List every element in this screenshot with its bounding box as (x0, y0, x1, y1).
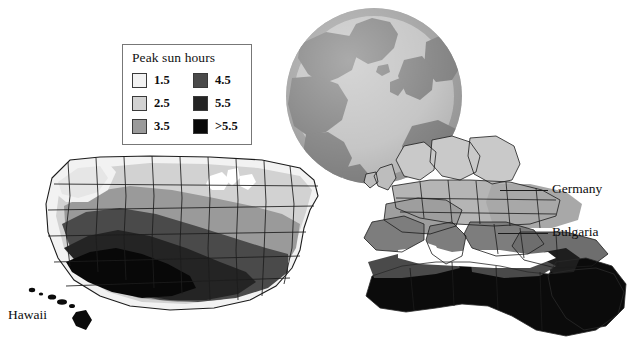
hawaii-label: Hawaii (8, 307, 47, 323)
legend-label-2-5: 2.5 (154, 97, 170, 110)
legend-swatch-2-5 (132, 96, 147, 111)
solar-resource-figure: Germany Bulgaria Hawaii Peak sun hours 1… (0, 0, 629, 364)
legend-item-5-5: 5.5 (193, 96, 231, 111)
bulgaria-leader-line (498, 233, 548, 234)
legend-item-1-5: 1.5 (132, 73, 170, 88)
germany-leader-line (500, 190, 548, 191)
legend-item-2-5: 2.5 (132, 96, 170, 111)
legend-swatch-4-5 (193, 73, 208, 88)
europe-africa-map (0, 0, 629, 364)
legend-swatch-1-5 (132, 73, 147, 88)
legend-item-4-5: 4.5 (193, 73, 231, 88)
legend-label-3-5: 3.5 (154, 120, 170, 133)
legend-swatch-gt-5-5 (193, 119, 208, 134)
legend-item-gt-5-5: >5.5 (193, 119, 238, 134)
legend-label-5-5: 5.5 (215, 97, 231, 110)
bulgaria-label: Bulgaria (552, 224, 599, 240)
legend-item-3-5: 3.5 (132, 119, 170, 134)
legend-label-1-5: 1.5 (154, 74, 170, 87)
legend-label-4-5: 4.5 (215, 74, 231, 87)
germany-label: Germany (552, 181, 602, 197)
legend-title: Peak sun hours (132, 50, 215, 66)
legend-label-gt-5-5: >5.5 (215, 120, 238, 133)
legend-swatch-5-5 (193, 96, 208, 111)
legend-swatch-3-5 (132, 119, 147, 134)
legend: Peak sun hours 1.5 2.5 3.5 4.5 5.5 >5.5 (122, 44, 252, 145)
